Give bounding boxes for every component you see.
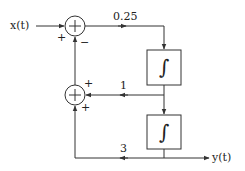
gain-forward-label: 0.25 (113, 11, 138, 22)
gain-inner-feedback-label: 1 (120, 80, 127, 91)
sum1-left-sign: + (57, 32, 66, 43)
output-label: y(t) (212, 152, 231, 163)
sum1-bottom-sign: − (80, 37, 89, 48)
sum2-bottom-sign: + (81, 102, 90, 113)
block-diagram: x(t) y(t) + − + + 0.25 1 3 ∫ ∫ (0, 0, 245, 171)
input-label: x(t) (10, 20, 29, 31)
sum2-right-sign: + (84, 78, 93, 89)
integral-icon-1: ∫ (159, 57, 169, 77)
gain-outer-feedback-label: 3 (120, 143, 127, 154)
integral-icon-2: ∫ (159, 122, 169, 142)
